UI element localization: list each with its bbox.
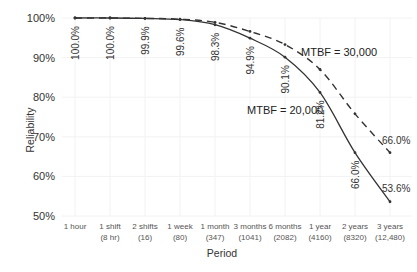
x-tick-label: 2 shifts (132, 222, 157, 231)
data-point (284, 43, 287, 46)
data-point (179, 18, 182, 21)
data-point (319, 91, 322, 94)
data-point (74, 17, 77, 20)
data-point (109, 17, 112, 20)
data-point (249, 30, 252, 33)
reliability-chart: 50%60%70%80%90%100% 1 hour1 shift(8 hr)2… (0, 0, 417, 272)
data-point (354, 151, 357, 154)
x-tick-label: 2 years (342, 222, 368, 231)
y-tick-label: 80% (33, 91, 55, 103)
annotation-mtbf-30000: MTBF = 30,000 (301, 46, 377, 58)
x-tick-label: 1 week (167, 222, 193, 231)
x-axis-ticks: 1 hour1 shift(8 hr)2 shifts(16)1 week(80… (64, 222, 406, 242)
x-tick-label: 1 hour (64, 222, 87, 231)
data-label: 53.6% (382, 183, 410, 194)
x-tick-label: 3 years (377, 222, 403, 231)
data-label: 100.0% (70, 26, 81, 60)
data-label: 100.0% (105, 26, 116, 60)
x-tick-sublabel: (4160) (308, 233, 331, 242)
data-label: 66.0% (382, 135, 410, 146)
data-point (284, 56, 287, 59)
x-tick-sublabel: (8320) (343, 233, 366, 242)
x-tick-label: 1 shift (99, 222, 121, 231)
y-axis-label: Reliability (24, 107, 36, 153)
y-tick-label: 60% (33, 170, 55, 182)
series-lines (74, 17, 392, 204)
x-tick-sublabel: (80) (173, 233, 188, 242)
data-label: 66.0% (350, 161, 361, 189)
x-tick-sublabel: (347) (206, 233, 225, 242)
data-label: 90.1% (280, 65, 291, 93)
y-tick-label: 70% (33, 131, 55, 143)
data-point (319, 68, 322, 71)
y-tick-label: 100% (27, 12, 55, 24)
annotation-mtbf-20000: MTBF = 20,000 (247, 104, 323, 116)
x-tick-label: 3 months (234, 222, 267, 231)
data-point (144, 17, 147, 20)
data-label: 94.9% (245, 46, 256, 74)
y-tick-label: 90% (33, 52, 55, 64)
data-label: 99.6% (175, 27, 186, 55)
x-tick-label: 1 year (309, 222, 332, 231)
x-tick-label: 6 months (269, 222, 302, 231)
x-tick-label: 1 month (201, 222, 230, 231)
data-label: 98.3% (210, 33, 221, 61)
data-point (389, 151, 392, 154)
x-tick-sublabel: (12,480) (375, 233, 405, 242)
x-tick-sublabel: (1041) (238, 233, 261, 242)
x-tick-sublabel: (16) (138, 233, 153, 242)
x-tick-sublabel: (8 hr) (100, 233, 119, 242)
data-point (389, 200, 392, 203)
data-point (354, 112, 357, 115)
y-tick-label: 50% (33, 210, 55, 222)
x-axis-label: Period (207, 247, 238, 259)
data-point (249, 37, 252, 40)
data-label: 99.9% (140, 26, 151, 54)
data-point (214, 21, 217, 24)
x-tick-sublabel: (2082) (273, 233, 296, 242)
